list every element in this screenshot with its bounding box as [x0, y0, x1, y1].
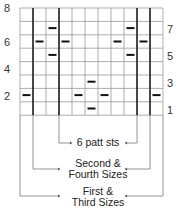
purl-mark — [127, 54, 135, 56]
purl-mark — [88, 108, 96, 110]
second-fourth-line2: Fourth Sizes — [53, 169, 143, 180]
row-label-5: 5 — [167, 50, 173, 62]
first-third-line2: Third Sizes — [53, 197, 143, 208]
purl-mark — [114, 41, 122, 43]
purl-mark — [36, 41, 44, 43]
purl-mark — [49, 54, 57, 56]
purl-mark — [49, 27, 57, 29]
knitting-chart-grid — [0, 0, 180, 214]
row-label-4: 4 — [4, 63, 10, 75]
purl-mark — [127, 27, 135, 29]
row-label-6: 6 — [4, 36, 10, 48]
row-label-2: 2 — [4, 90, 10, 102]
purl-mark — [101, 94, 109, 96]
purl-mark — [23, 94, 31, 96]
purl-mark — [140, 41, 148, 43]
purl-mark — [62, 41, 70, 43]
row-label-8: 8 — [4, 2, 10, 14]
purl-mark — [88, 81, 96, 83]
purl-mark — [153, 94, 161, 96]
purl-mark — [75, 94, 83, 96]
repeat-label: 6 patt sts — [53, 137, 143, 148]
row-label-1: 1 — [167, 104, 173, 116]
row-label-7: 7 — [167, 23, 173, 35]
row-label-3: 3 — [167, 77, 173, 89]
